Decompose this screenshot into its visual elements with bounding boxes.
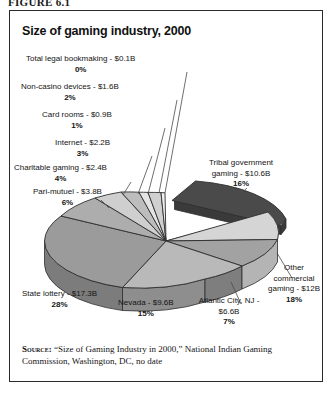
- callout-label-internet: Internet - $2.2B: [55, 138, 110, 147]
- callout-total-legal-bookmaking: Total legal bookmaking - $0.1B 0%: [26, 54, 135, 75]
- callout-label-nevada: Nevada - $9.6B: [118, 298, 174, 307]
- callout-card-rooms: Card rooms - $0.9B 1%: [42, 110, 112, 131]
- callout-label-tribal-government-gaming: Tribal government gaming - $10.6B: [209, 158, 273, 178]
- callout-pct-non-casino-devices: 2%: [21, 93, 119, 104]
- callout-pct-state-lottery: 28%: [22, 300, 97, 311]
- callout-label-non-casino-devices: Non-casino devices - $1.6B: [21, 82, 119, 91]
- callout-label-atlantic-city-nj: Atlantic City, NJ - $6.6B: [199, 296, 260, 316]
- callout-tribal-government-gaming: Tribal government gaming - $10.6B 16%: [203, 158, 279, 190]
- callout-label-state-lottery: State lottery - $17.3B: [22, 289, 97, 298]
- callout-pct-other-commercial-gaming: 18%: [266, 295, 322, 306]
- leader-bookmaking: [165, 72, 187, 193]
- callout-pct-pari-mutuel: 6%: [33, 198, 102, 209]
- callout-label-total-legal-bookmaking: Total legal bookmaking - $0.1B: [26, 54, 135, 63]
- callout-pct-total-legal-bookmaking: 0%: [26, 65, 135, 76]
- callout-non-casino-devices: Non-casino devices - $1.6B 2%: [21, 82, 119, 103]
- callout-pari-mutuel: Pari-mutuel - $3.8B 6%: [33, 187, 102, 208]
- source-note: Source: “Size of Gaming Industry in 2000…: [22, 344, 304, 367]
- callout-pct-card-rooms: 1%: [42, 121, 112, 132]
- leader-internet: [138, 156, 152, 194]
- source-text: “Size of Gaming Industry in 2000,” Natio…: [22, 344, 272, 366]
- callout-label-charitable-gaming: Charitable gaming - $2.4B: [14, 163, 107, 172]
- callout-label-pari-mutuel: Pari-mutuel - $3.8B: [33, 187, 102, 196]
- callout-nevada: Nevada - $9.6B 15%: [118, 298, 174, 319]
- callout-internet: Internet - $2.2B 3%: [55, 138, 110, 159]
- figure-label: FIGURE 6.1: [8, 0, 70, 8]
- callout-pct-internet: 3%: [55, 149, 110, 160]
- callout-charitable-gaming: Charitable gaming - $2.4B 4%: [14, 163, 107, 184]
- callout-state-lottery: State lottery - $17.3B 28%: [22, 289, 97, 310]
- callout-atlantic-city-nj: Atlantic City, NJ - $6.6B 7%: [196, 296, 262, 328]
- callout-pct-nevada: 15%: [118, 309, 174, 320]
- callout-pct-atlantic-city-nj: 7%: [196, 317, 262, 328]
- leader-noncasino: [159, 100, 177, 193]
- source-kicker: Source:: [22, 344, 52, 354]
- callout-other-commercial-gaming: Other commercial gaming - $12B 18%: [266, 263, 322, 305]
- callout-pct-tribal-government-gaming: 16%: [203, 179, 279, 190]
- callout-pct-charitable-gaming: 4%: [14, 174, 107, 185]
- callout-label-card-rooms: Card rooms - $0.9B: [42, 110, 112, 119]
- callout-label-other-commercial-gaming: Other commercial gaming - $12B: [268, 263, 320, 293]
